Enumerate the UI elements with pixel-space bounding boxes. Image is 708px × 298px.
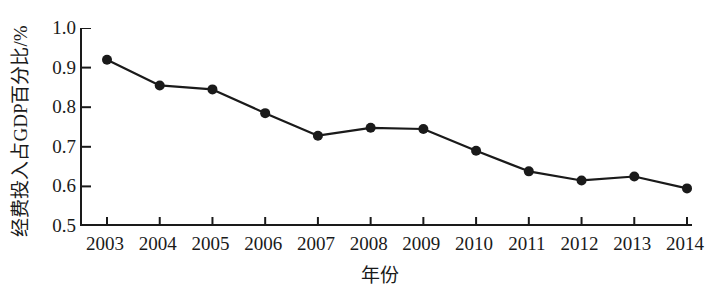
data-point-marker [524, 166, 534, 176]
y-axis-tick-label: 0.8 [30, 97, 76, 116]
data-point-marker [471, 146, 481, 156]
plot-area [80, 28, 692, 226]
data-point-marker [102, 55, 112, 65]
data-point-marker [629, 172, 639, 182]
x-axis-tick-label: 2012 [552, 232, 608, 256]
x-axis-tick-label: 2004 [130, 232, 186, 256]
y-axis-tick-labels: 1.00.90.80.70.60.5 [28, 0, 76, 298]
x-axis-tick-label: 2009 [393, 232, 449, 256]
y-axis-tick-label: 0.5 [30, 216, 76, 235]
data-point-marker [313, 131, 323, 141]
y-axis-tick-label: 0.7 [30, 137, 76, 156]
x-axis-tick-labels: 2003200420052006200720082009201020112012… [80, 232, 708, 258]
data-point-marker [366, 123, 376, 133]
data-point-marker [260, 108, 270, 118]
x-axis-tick-label: 2013 [604, 232, 660, 256]
x-axis-tick-label: 2011 [499, 232, 555, 256]
x-axis-tick-label: 2014 [657, 232, 708, 256]
y-axis-tick-label: 0.6 [30, 176, 76, 195]
series-markers [102, 55, 692, 194]
data-point-marker [682, 183, 692, 193]
data-point-marker [155, 80, 165, 90]
data-series-line [82, 28, 694, 226]
data-point-marker [577, 175, 587, 185]
x-axis-tick-label: 2006 [235, 232, 291, 256]
x-axis-tick-label: 2003 [77, 232, 133, 256]
x-axis-title: 年份 [0, 264, 708, 288]
data-point-marker [207, 84, 217, 94]
x-axis-tick-marks [107, 217, 687, 226]
x-axis-tick-label: 2010 [446, 232, 502, 256]
y-axis-tick-label: 0.9 [30, 58, 76, 77]
x-axis-tick-label: 2008 [341, 232, 397, 256]
y-axis-tick-label: 1.0 [30, 18, 76, 37]
y-axis-tick-marks [82, 28, 91, 226]
line-chart-figure: 经费投入占GDP百分比/% 1.00.90.80.70.60.5 2003200… [0, 0, 708, 298]
x-axis-tick-label: 2007 [288, 232, 344, 256]
series-polyline [107, 60, 687, 189]
x-axis-tick-label: 2005 [182, 232, 238, 256]
data-point-marker [418, 124, 428, 134]
